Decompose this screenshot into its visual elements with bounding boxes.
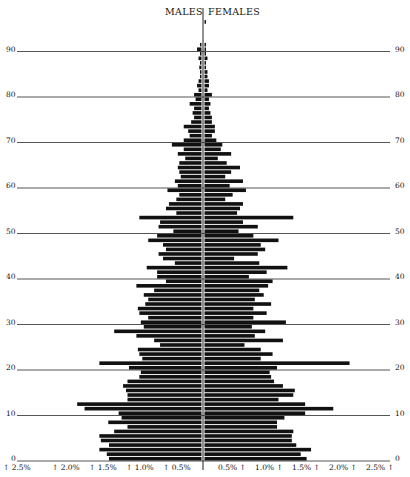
male-bar bbox=[109, 457, 202, 461]
x-tick-label-left: ↑ 2.5% bbox=[3, 463, 31, 472]
female-bar bbox=[205, 393, 294, 397]
male-bar bbox=[178, 166, 202, 170]
male-bar bbox=[145, 302, 201, 306]
male-bar bbox=[139, 375, 201, 379]
female-bar bbox=[205, 57, 208, 61]
male-bar bbox=[129, 366, 202, 370]
female-bar bbox=[205, 93, 212, 97]
female-bar bbox=[205, 179, 243, 183]
female-bar bbox=[205, 411, 306, 415]
female-bar bbox=[205, 102, 211, 106]
female-bar bbox=[205, 434, 292, 438]
female-bar bbox=[205, 20, 206, 24]
male-bar bbox=[175, 179, 202, 183]
male-bar bbox=[148, 316, 201, 320]
male-bar bbox=[179, 161, 201, 165]
male-bar bbox=[114, 330, 201, 334]
male-bar bbox=[139, 216, 201, 220]
female-bar bbox=[205, 370, 270, 374]
age-label: 20 bbox=[6, 363, 16, 372]
female-bar bbox=[205, 316, 254, 320]
male-bar bbox=[160, 220, 201, 224]
female-bar bbox=[205, 70, 208, 74]
male-bar bbox=[178, 152, 202, 156]
female-bar bbox=[205, 266, 288, 270]
male-bar bbox=[128, 393, 202, 397]
female-bar bbox=[205, 361, 350, 365]
female-bar bbox=[205, 248, 266, 252]
male-bar bbox=[109, 443, 202, 447]
female-bar bbox=[205, 330, 266, 334]
male-bar bbox=[200, 61, 201, 65]
age-label: 30 bbox=[6, 318, 16, 327]
female-bar bbox=[205, 443, 297, 447]
female-bar bbox=[205, 243, 261, 247]
x-tick-label-left: ↑ 1.0% bbox=[126, 463, 154, 472]
female-bar bbox=[205, 170, 232, 174]
x-tick-label-left: ↑ 2.0% bbox=[52, 463, 80, 472]
age-label: 70 bbox=[6, 136, 16, 145]
female-bar bbox=[205, 407, 334, 411]
age-label: 0 bbox=[395, 454, 400, 463]
male-bar bbox=[101, 439, 202, 443]
female-bar bbox=[205, 275, 249, 279]
female-bar bbox=[205, 425, 278, 429]
male-bar bbox=[136, 334, 201, 338]
female-bar bbox=[205, 239, 279, 243]
female-bar bbox=[205, 116, 212, 120]
female-bar bbox=[205, 307, 254, 311]
male-bar bbox=[148, 239, 201, 243]
male-bar bbox=[160, 343, 201, 347]
male-bar bbox=[148, 298, 201, 302]
male-bar bbox=[179, 170, 201, 174]
female-bar bbox=[205, 198, 226, 202]
female-bar bbox=[205, 138, 217, 142]
male-bar bbox=[199, 66, 201, 70]
male-bar bbox=[157, 275, 201, 279]
female-bar bbox=[205, 261, 260, 265]
male-bar bbox=[166, 279, 202, 283]
male-bar bbox=[199, 79, 202, 83]
age-label: 70 bbox=[395, 136, 405, 145]
male-bar bbox=[123, 384, 201, 388]
female-bar bbox=[205, 380, 275, 384]
age-label: 90 bbox=[395, 45, 405, 54]
male-bar bbox=[144, 325, 202, 329]
female-bar bbox=[205, 188, 246, 192]
male-bar bbox=[178, 184, 202, 188]
female-bar bbox=[205, 47, 206, 51]
male-bar bbox=[194, 116, 201, 120]
female-bar bbox=[205, 293, 264, 297]
male-bar bbox=[147, 266, 202, 270]
male-bar bbox=[169, 202, 202, 206]
female-bar bbox=[205, 107, 209, 111]
age-label: 60 bbox=[6, 181, 16, 190]
female-bar bbox=[205, 220, 243, 224]
female-bar bbox=[205, 161, 227, 165]
male-bar bbox=[154, 339, 201, 343]
male-bar bbox=[191, 120, 201, 124]
male-bar bbox=[184, 125, 202, 129]
female-bar bbox=[205, 402, 306, 406]
male-bar bbox=[159, 225, 202, 229]
female-bar bbox=[205, 398, 279, 402]
females-header: FEMALES bbox=[208, 6, 260, 17]
male-bar bbox=[194, 93, 201, 97]
male-bar bbox=[142, 357, 201, 361]
age-label: 40 bbox=[6, 272, 16, 281]
female-bar bbox=[205, 120, 212, 124]
female-bar bbox=[205, 134, 212, 138]
male-bar bbox=[166, 207, 202, 211]
male-bar bbox=[114, 430, 201, 434]
male-bar bbox=[108, 421, 201, 425]
male-bar bbox=[99, 434, 201, 438]
male-bar bbox=[166, 248, 202, 252]
female-bar bbox=[205, 125, 215, 129]
female-bar bbox=[205, 184, 230, 188]
male-bar bbox=[136, 284, 201, 288]
female-bar bbox=[205, 61, 206, 65]
male-bar bbox=[128, 425, 202, 429]
age-label: 10 bbox=[395, 409, 405, 418]
age-label: 90 bbox=[6, 45, 16, 54]
female-bar bbox=[205, 284, 269, 288]
